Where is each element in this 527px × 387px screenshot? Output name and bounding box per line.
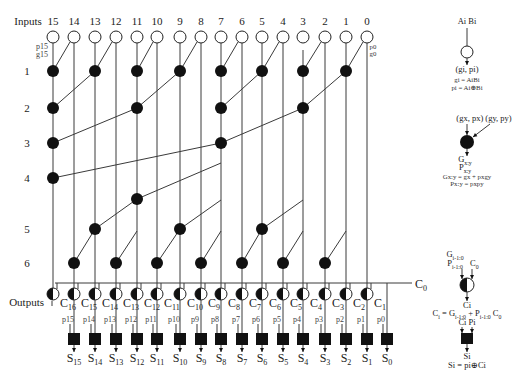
arrow-head-icon [460,329,464,333]
carry-node-c15 [68,288,80,300]
prefix-node-c15-r3 [47,137,59,149]
input-column-label: 14 [69,15,81,27]
subscript-text: x:y [464,160,472,166]
half-node-fill [195,288,201,300]
main-text: p0 [377,315,385,324]
input-pg-node-4 [277,31,289,43]
carry-node-c11 [151,288,163,300]
main-text: g15 [36,50,48,59]
prefix-node-c11-r4b [131,193,143,205]
row-label: 5 [24,223,30,235]
subscript-text: 13 [131,303,139,312]
subscript-text: 11 [156,358,164,367]
subscript-text: 3 [326,358,330,367]
propagate-label: p13 [104,315,116,324]
legend-pg-node [461,46,473,58]
main-text: (gx, px) (gy, py) [456,113,512,123]
input-pg-node-3 [297,31,309,43]
arrow-head-icon [465,152,469,156]
arrow-head-icon [470,275,474,279]
subscript-text: 11 [172,303,180,312]
subscript-text: 10 [179,358,187,367]
main-text: 15 [48,15,60,27]
main-text: 2 [322,15,328,27]
carry-label: C4 [310,296,322,312]
prefix-node-c9-r5 [174,223,186,235]
main-text: S [382,351,389,365]
main-text: S [88,351,95,365]
main-text: Inputs [14,15,42,27]
main-text: pi = Ai⊕Bi [451,84,482,91]
input-pg-node-8 [195,31,207,43]
prefix-node-c2-r6 [319,257,331,269]
input-column-label: 13 [90,15,102,27]
prefix-node-c15-r1 [47,65,59,77]
main-text: C [374,296,382,310]
sum-node-s15 [68,333,80,345]
propagate-label: p8 [211,315,219,324]
main-text: p6 [252,315,260,324]
sum-node-s8 [215,333,227,345]
subscript-text: 9 [216,303,220,312]
propagate-label: p2 [336,315,344,324]
main-text: Px:y = pxpy [450,180,484,187]
outputs-label: Outputs [9,296,44,308]
main-text: C [415,277,423,291]
subscript-text: 12 [152,303,160,312]
sum-label: S15 [67,351,82,367]
main-text: 14 [69,15,81,27]
subscript-text: 7 [243,358,247,367]
legend-prefix-eq-g: Gx:y = gx + pxgy [443,173,492,180]
main-text: 3 [24,137,30,149]
prefix-node-c13-r5 [89,223,101,235]
prefix-node-c7-r2 [215,102,227,114]
propagate-label: p7 [232,315,240,324]
main-text: S [150,351,157,365]
input-pg-node-0 [361,31,373,43]
main-text: 10 [152,15,164,27]
main-text: 13 [90,15,102,27]
subscript-text: 13 [115,358,123,367]
prefix-edge [157,229,180,263]
row-label: 3 [24,137,30,149]
main-text: p1 [357,315,365,324]
propagate-label: p5 [273,315,281,324]
legend-sum-arrow-p [470,327,474,333]
main-text: p5 [273,315,281,324]
main-text: C [164,296,172,310]
main-text: p7 [232,315,240,324]
main-text: p10 [168,315,180,324]
main-text: p0 [370,43,377,50]
inputs-label: Inputs [14,15,42,27]
subscript-text: 14 [94,358,102,367]
subscript-text: 12 [136,358,144,367]
main-text: S [320,351,327,365]
subscript-text: 4 [304,358,308,367]
legend-carry-arrow-c [470,269,474,279]
main-text: S [237,351,244,365]
main-text: S [278,351,285,365]
input-column-label: 9 [177,15,183,27]
propagate-label: p6 [252,315,260,324]
main-text: p8 [211,315,219,324]
input-column-label: 15 [48,15,60,27]
sum-node-s14 [89,333,101,345]
subscript-text: 7 [257,303,261,312]
carry-node-c3 [319,288,331,300]
prefix-edge [137,163,221,199]
legend-prefix-node [460,135,474,149]
input-column-label: 5 [259,15,265,27]
main-text: S [298,351,305,365]
prefix-node-c11-r1 [131,65,143,77]
subscript-text: 4 [318,303,322,312]
g15-label: g15 [36,50,48,59]
prefix-node-c10-r6 [151,257,163,269]
main-text: 3 [300,15,306,27]
main-text: S [173,351,180,365]
propagate-label: p0 [377,315,385,324]
prefix-node-c9-r1 [174,65,186,77]
row-label: 2 [24,102,30,114]
sum-label: S0 [382,351,393,367]
subscript-text: 2 [347,358,351,367]
propagate-label: p11 [145,315,157,324]
